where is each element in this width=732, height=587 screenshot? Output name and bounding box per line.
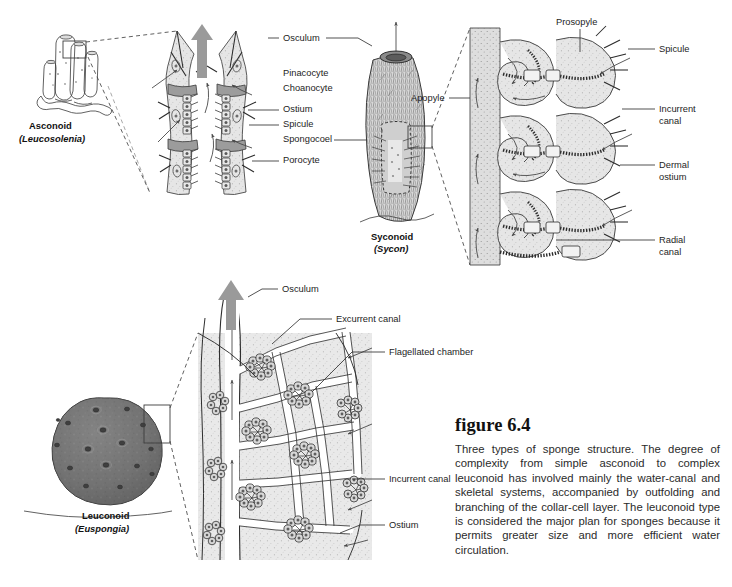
leuconoid-type-name: Leuconoid [82,510,130,521]
label-flagellated-chamber: Flagellated chamber [389,347,473,357]
label-spongocoel: Spongocoel [283,134,332,144]
figure-caption-text: Three types of sponge structure. The deg… [455,442,720,557]
syconoid-type-name: Syconoid [371,231,413,242]
syconoid-genus: (Sycon) [374,243,408,254]
label-ostium-leuconoid: Ostium [389,520,419,530]
asconoid-genus: (Leucosolenia) [19,133,85,144]
label-osculum-top: Osculum [283,33,320,43]
label-osculum-leuconoid: Osculum [282,284,319,294]
label-radial-canal-l2: canal [659,247,681,257]
label-incurrent-canal-syconoid-l2: canal [659,116,681,126]
label-choanocyte: Choanocyte [283,83,333,93]
label-spicule-asconoid: Spicule [283,119,314,129]
label-porocyte: Porocyte [283,155,320,165]
label-apopyle: Apopyle [411,93,445,103]
label-incurrent-canal-leuconoid: Incurrent canal [389,474,451,484]
asconoid-type-name: Asconoid [29,120,72,131]
label-dermal-ostium-l2: ostium [659,172,687,182]
figure-caption-block: figure 6.4 Three types of sponge structu… [455,415,720,557]
figure-number-heading: figure 6.4 [455,415,720,436]
label-pinacocyte: Pinacocyte [283,68,328,78]
label-dermal-ostium-l1: Dermal [659,160,689,170]
label-radial-canal-l1: Radial [659,235,685,245]
syconoid-enlargement [470,26,632,265]
label-spicule-syconoid: Spicule [659,44,690,54]
label-ostium-asconoid: Ostium [283,104,313,114]
label-prosopyle: Prosopyle [556,17,597,27]
label-incurrent-canal-syconoid-l1: Incurrent [659,104,696,114]
leuconoid-genus: (Euspongia) [75,523,129,534]
label-excurrent-canal: Excurrent canal [336,314,401,324]
